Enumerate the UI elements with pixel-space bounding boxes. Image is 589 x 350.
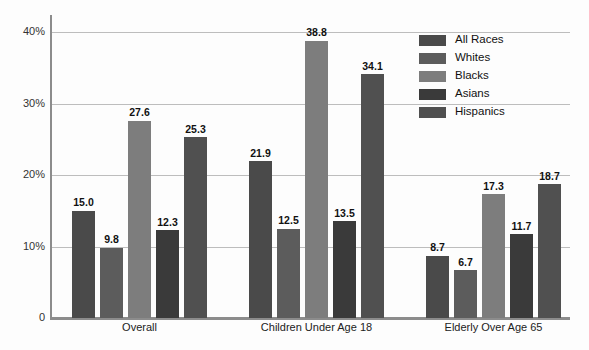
bar-value-label: 18.7 <box>531 171 568 182</box>
y-axis-tick-label: 20% <box>1 169 45 180</box>
bar-value-label: 34.1 <box>354 61 391 72</box>
bar-chart: 010%20%30%40% 15.09.827.612.325.3Overall… <box>0 0 589 350</box>
legend-swatch <box>419 71 446 82</box>
bar-value-label: 12.3 <box>149 217 186 228</box>
bar-rect <box>305 41 328 318</box>
y-axis-tick-label: 0 <box>1 312 45 323</box>
legend-label: Asians <box>455 88 490 100</box>
bar-rect <box>454 270 477 318</box>
bar-group: 15.09.827.612.325.3 <box>72 32 207 318</box>
bar-rect <box>333 221 356 318</box>
legend-item: All Races <box>419 32 505 48</box>
category-label: Overall <box>40 322 240 333</box>
category-label: Children Under Age 18 <box>217 322 417 333</box>
legend-swatch <box>419 35 446 46</box>
bar-rect <box>184 137 207 318</box>
bar-rect <box>156 230 179 318</box>
bar-rect <box>482 194 505 318</box>
bar-value-label: 25.3 <box>177 124 214 135</box>
bar-rect <box>361 74 384 318</box>
legend-label: Hispanics <box>455 106 505 118</box>
y-axis-line <box>50 15 52 319</box>
legend-item: Asians <box>419 86 505 102</box>
bar-rect <box>100 248 123 318</box>
legend-swatch <box>419 89 446 100</box>
bar-value-label: 13.5 <box>326 208 363 219</box>
bar-value-label: 15.0 <box>65 197 102 208</box>
legend-label: Whites <box>455 52 490 64</box>
y-axis-tick-labels: 010%20%30%40% <box>0 0 45 350</box>
bar-rect <box>72 211 95 318</box>
bar-value-label: 6.7 <box>447 257 484 268</box>
bar-value-label: 21.9 <box>242 148 279 159</box>
bar-value-label: 12.5 <box>270 215 307 226</box>
bar-rect <box>510 234 533 318</box>
bar-value-label: 8.7 <box>419 242 456 253</box>
bar-value-label: 27.6 <box>121 107 158 118</box>
bar-value-label: 17.3 <box>475 181 512 192</box>
legend-swatch <box>419 53 446 64</box>
legend-item: Blacks <box>419 68 505 84</box>
y-axis-tick-label: 40% <box>1 26 45 37</box>
legend: All RacesWhitesBlacksAsiansHispanics <box>419 32 505 122</box>
legend-label: Blacks <box>455 70 489 82</box>
bar-rect <box>277 229 300 318</box>
bar-rect <box>128 121 151 318</box>
y-axis-tick-label: 30% <box>1 98 45 109</box>
bar-rect <box>538 184 561 318</box>
bar-rect <box>249 161 272 318</box>
bar-value-label: 9.8 <box>93 234 130 245</box>
bar-group: 21.912.538.813.534.1 <box>249 32 384 318</box>
legend-item: Hispanics <box>419 104 505 120</box>
legend-label: All Races <box>455 34 504 46</box>
category-label: Elderly Over Age 65 <box>394 322 589 333</box>
legend-item: Whites <box>419 50 505 66</box>
legend-swatch <box>419 107 446 118</box>
bar-value-label: 38.8 <box>298 27 335 38</box>
bar-value-label: 11.7 <box>503 221 540 232</box>
y-axis-tick-label: 10% <box>1 241 45 252</box>
bar-rect <box>426 256 449 318</box>
